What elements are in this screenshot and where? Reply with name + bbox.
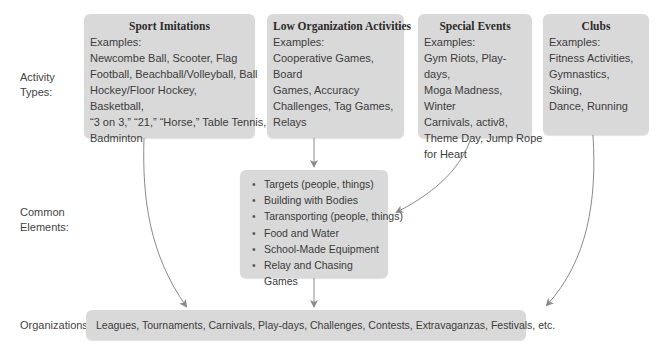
connector-arrows xyxy=(0,0,664,353)
arrow-special-to-common xyxy=(397,138,471,212)
arrow-sport-to-organizations xyxy=(144,138,186,306)
arrow-clubs-to-organizations xyxy=(547,135,594,305)
